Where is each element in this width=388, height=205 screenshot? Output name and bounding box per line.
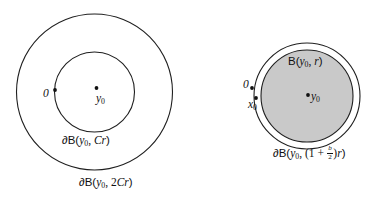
right-ball-prefix: B( — [288, 55, 300, 67]
left-center-point-dot — [95, 86, 99, 90]
left-origin-label: 0 — [43, 88, 49, 100]
right-ball-suffix: ) — [319, 55, 323, 67]
right-x0-subscript: 0 — [253, 103, 257, 112]
left-outer-boundary-radius: Cr — [117, 176, 129, 188]
left-inner-boundary-radius: Cr — [94, 134, 106, 146]
right-x0-label: x0 — [248, 99, 257, 112]
left-center-subscript: 0 — [101, 97, 105, 106]
left-inner-circle — [55, 52, 135, 132]
figure-canvas — [0, 0, 388, 205]
left-inner-boundary-prefix: ∂B( — [62, 134, 79, 146]
left-origin-point-dot — [53, 88, 57, 92]
right-origin-label: 0 — [243, 79, 249, 91]
right-boundary-plus: + — [315, 147, 327, 159]
left-outer-boundary-suffix: ) — [129, 176, 133, 188]
right-ball-label: B(y0, r) — [288, 56, 323, 69]
left-outer-boundary-prefix: ∂B( — [79, 176, 96, 188]
left-center-label: y0 — [96, 93, 105, 106]
left-outer-boundary-label: ∂B(y0, 2Cr) — [79, 177, 133, 190]
right-boundary-prefix: ∂B( — [273, 147, 290, 159]
left-origin-text: 0 — [43, 87, 49, 99]
figure-root: 0 y0 ∂B(y0, Cr) ∂B(y0, 2Cr) 0 x0 B(y0, r… — [0, 0, 388, 205]
right-boundary-separator: , ( — [299, 147, 309, 159]
right-center-subscript: 0 — [316, 95, 320, 104]
right-boundary-label: ∂B(y0, (1 + b2)r) — [273, 145, 346, 161]
right-origin-point-dot — [250, 86, 254, 90]
right-boundary-suffix: ) — [342, 147, 346, 159]
right-center-point-dot — [306, 93, 310, 97]
right-center-label: y0 — [311, 91, 320, 104]
right-origin-text: 0 — [243, 78, 249, 90]
left-inner-boundary-label: ∂B(y0, Cr) — [62, 135, 110, 148]
left-inner-boundary-suffix: ) — [106, 134, 110, 146]
